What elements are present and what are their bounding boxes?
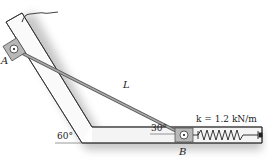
label-point-a: A — [0, 55, 8, 66]
label-angle-60: 60° — [57, 131, 73, 141]
label-point-b: B — [178, 146, 186, 157]
label-spring-constant: k = 1.2 kN/m — [196, 114, 257, 124]
pin-a-center-icon — [13, 48, 15, 50]
label-rod-length: L — [122, 79, 130, 90]
pin-b-center-icon — [183, 134, 185, 136]
label-angle-30: 30° — [151, 123, 167, 133]
inclined-slot — [8, 15, 90, 141]
mechanism-diagram: A B L k = 1.2 kN/m 60° 30° — [0, 0, 268, 164]
